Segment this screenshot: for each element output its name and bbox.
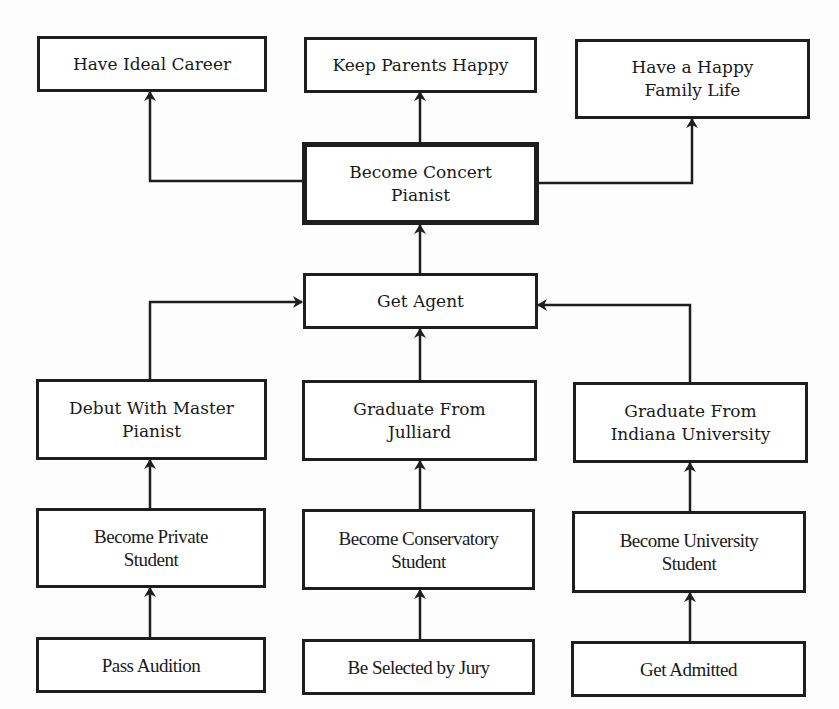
node-become-concert-pianist: Become Concert Pianist: [302, 142, 539, 225]
node-label-line2: Indiana University: [611, 423, 771, 446]
node-label: Pass Audition: [102, 654, 201, 677]
node-label-line2: Student: [339, 550, 499, 573]
node-debut-with-master-pianist: Debut With Master Pianist: [36, 379, 267, 460]
node-graduate-from-julliard: Graduate From Julliard: [302, 380, 537, 461]
node-label-line1: Have a Happy: [632, 56, 754, 79]
node-label: Have Ideal Career: [73, 53, 231, 76]
node-label-line2: Julliard: [353, 421, 485, 444]
node-have-ideal-career: Have Ideal Career: [37, 36, 267, 92]
node-be-selected-by-jury: Be Selected by Jury: [302, 639, 535, 695]
node-label-line2: Student: [620, 552, 759, 575]
node-happy-family-life: Have a Happy Family Life: [575, 39, 810, 119]
node-label-line2: Student: [94, 548, 208, 571]
diagram-canvas: Have Ideal Career Keep Parents Happy Hav…: [0, 0, 839, 709]
node-get-admitted: Get Admitted: [571, 641, 806, 697]
node-become-conservatory-student: Become Conservatory Student: [302, 509, 535, 590]
node-label: Get Admitted: [640, 658, 737, 681]
node-become-private-student: Become Private Student: [36, 508, 266, 588]
node-label-line1: Debut With Master: [69, 397, 234, 420]
node-label-line2: Pianist: [349, 184, 492, 207]
node-become-university-student: Become University Student: [572, 511, 806, 593]
node-label-line1: Become University: [620, 529, 759, 552]
node-label-line1: Graduate From: [353, 398, 485, 421]
node-label: Keep Parents Happy: [333, 54, 509, 77]
node-label-line2: Family Life: [632, 79, 754, 102]
node-label-line1: Become Private: [94, 525, 208, 548]
node-graduate-from-indiana: Graduate From Indiana University: [573, 382, 808, 463]
node-label: Be Selected by Jury: [348, 656, 490, 679]
node-get-agent: Get Agent: [303, 273, 538, 329]
node-label-line1: Graduate From: [611, 400, 771, 423]
node-label-line2: Pianist: [69, 420, 234, 443]
node-label: Get Agent: [377, 290, 464, 313]
node-label-line1: Become Concert: [349, 161, 492, 184]
node-label-line1: Become Conservatory: [339, 527, 499, 550]
arrow-to-ideal-career: [150, 92, 304, 181]
node-pass-audition: Pass Audition: [36, 637, 266, 693]
node-keep-parents-happy: Keep Parents Happy: [304, 37, 537, 93]
